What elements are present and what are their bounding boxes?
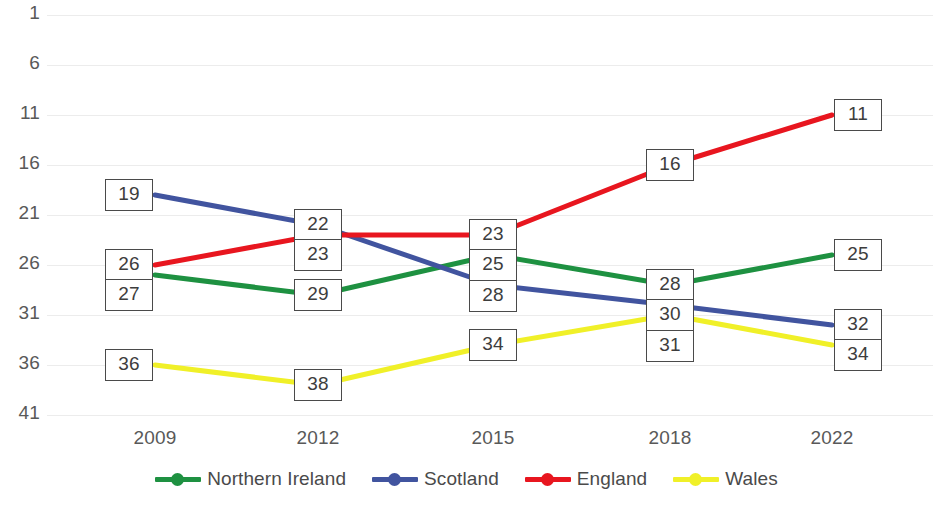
data-point-label: 28 [646,269,694,301]
chart-legend: Northern IrelandScotlandEnglandWales [0,468,933,490]
legend-label: England [577,468,647,490]
data-point-label: 25 [469,249,517,281]
data-point-label: 31 [646,330,694,362]
data-point-label: 34 [834,339,882,371]
data-point-label: 36 [105,349,153,381]
data-point-label: 22 [294,209,342,241]
x-axis-tick-label: 2022 [787,427,877,449]
x-axis-tick-label: 2012 [273,427,363,449]
legend-marker-icon [155,472,201,486]
data-point-label: 16 [646,149,694,181]
legend-item[interactable]: Northern Ireland [155,468,346,490]
legend-label: Scotland [424,468,499,490]
legend-marker-icon [372,472,418,486]
legend-marker-icon [525,472,571,486]
legend-label: Northern Ireland [207,468,346,490]
line-chart: 1611162126313641 19262736222329382325283… [0,0,933,506]
x-axis-tick-label: 2009 [110,427,200,449]
legend-item[interactable]: England [525,468,647,490]
data-point-label: 30 [646,299,694,331]
data-point-label: 38 [294,369,342,401]
legend-item[interactable]: Wales [673,468,778,490]
data-point-label: 32 [834,309,882,341]
data-point-label: 27 [105,279,153,311]
data-point-label: 11 [834,99,882,131]
data-point-label: 29 [294,279,342,311]
data-point-label: 34 [469,329,517,361]
data-point-label: 23 [294,239,342,271]
legend-marker-icon [673,472,719,486]
data-point-label: 23 [469,219,517,251]
legend-item[interactable]: Scotland [372,468,499,490]
plot-area: 1611162126313641 19262736222329382325283… [0,0,933,430]
data-point-label: 19 [105,179,153,211]
data-point-label: 26 [105,249,153,281]
x-axis-tick-label: 2015 [448,427,538,449]
data-point-label: 25 [834,239,882,271]
x-axis-tick-label: 2018 [625,427,715,449]
legend-label: Wales [725,468,778,490]
data-point-label: 28 [469,280,517,312]
